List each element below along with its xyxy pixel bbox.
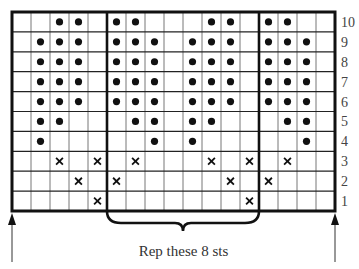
start-arrow-right-head <box>331 213 339 225</box>
repeat-brace <box>107 211 259 231</box>
purl-dot <box>189 98 196 105</box>
row-label: 5 <box>341 114 348 129</box>
purl-dot <box>132 38 139 45</box>
cross-stitch <box>113 178 120 185</box>
purl-dot <box>208 18 215 25</box>
purl-dot <box>56 98 63 105</box>
start-arrow-left-head <box>8 213 16 225</box>
purl-dot <box>37 58 44 65</box>
purl-dot <box>284 58 291 65</box>
purl-dot <box>284 18 291 25</box>
purl-dot <box>113 38 120 45</box>
purl-dot <box>303 78 310 85</box>
purl-dot <box>265 98 272 105</box>
purl-dot <box>132 98 139 105</box>
purl-dot <box>56 78 63 85</box>
row-label: 1 <box>341 194 348 209</box>
row-label: 10 <box>341 15 355 30</box>
purl-dot <box>113 78 120 85</box>
purl-dot <box>189 38 196 45</box>
purl-dot <box>56 58 63 65</box>
purl-dot <box>151 98 158 105</box>
purl-dot <box>265 18 272 25</box>
purl-dot <box>37 118 44 125</box>
purl-dot <box>132 18 139 25</box>
purl-dot <box>189 138 196 145</box>
purl-dot <box>151 78 158 85</box>
purl-dot <box>113 98 120 105</box>
purl-dot <box>303 138 310 145</box>
purl-dot <box>113 58 120 65</box>
purl-dot <box>227 38 234 45</box>
purl-dot <box>303 98 310 105</box>
purl-dot <box>208 78 215 85</box>
purl-dot <box>151 38 158 45</box>
purl-dot <box>208 98 215 105</box>
cross-stitch <box>265 178 272 185</box>
purl-dot <box>132 58 139 65</box>
purl-dot <box>132 118 139 125</box>
purl-dot <box>227 98 234 105</box>
cross-stitch <box>208 158 215 165</box>
purl-dot <box>151 58 158 65</box>
purl-dot <box>189 58 196 65</box>
purl-dot <box>189 78 196 85</box>
purl-dot <box>56 38 63 45</box>
cross-stitch <box>75 178 82 185</box>
cross-stitch <box>132 158 139 165</box>
purl-dot <box>303 58 310 65</box>
purl-dot <box>265 38 272 45</box>
purl-dot <box>75 38 82 45</box>
purl-dot <box>37 78 44 85</box>
repeat-caption: Rep these 8 sts <box>0 243 359 260</box>
purl-dot <box>56 18 63 25</box>
purl-dot <box>265 58 272 65</box>
knitting-chart: 10987654321 <box>0 0 359 269</box>
purl-dot <box>151 138 158 145</box>
purl-dot <box>208 118 215 125</box>
purl-dot <box>75 58 82 65</box>
row-label: 7 <box>341 75 348 90</box>
purl-dot <box>56 118 63 125</box>
purl-dot <box>208 58 215 65</box>
cross-stitch <box>94 198 101 205</box>
purl-dot <box>265 78 272 85</box>
purl-dot <box>113 18 120 25</box>
row-label: 6 <box>341 95 348 110</box>
cross-stitch <box>284 158 291 165</box>
purl-dot <box>303 38 310 45</box>
row-label: 2 <box>341 174 348 189</box>
purl-dot <box>284 78 291 85</box>
cross-stitch <box>227 178 234 185</box>
purl-dot <box>227 78 234 85</box>
purl-dot <box>132 78 139 85</box>
purl-dot <box>151 118 158 125</box>
cross-stitch <box>246 158 253 165</box>
purl-dot <box>75 18 82 25</box>
purl-dot <box>208 38 215 45</box>
purl-dot <box>284 98 291 105</box>
purl-dot <box>75 98 82 105</box>
cross-stitch <box>56 158 63 165</box>
row-label: 4 <box>341 134 348 149</box>
purl-dot <box>227 18 234 25</box>
cross-stitch <box>94 158 101 165</box>
row-label: 9 <box>341 35 348 50</box>
cross-stitch <box>246 198 253 205</box>
purl-dot <box>284 118 291 125</box>
purl-dot <box>189 118 196 125</box>
purl-dot <box>37 38 44 45</box>
purl-dot <box>284 38 291 45</box>
purl-dot <box>37 138 44 145</box>
purl-dot <box>303 118 310 125</box>
purl-dot <box>75 78 82 85</box>
purl-dot <box>37 98 44 105</box>
row-label: 8 <box>341 55 348 70</box>
row-label: 3 <box>341 154 348 169</box>
purl-dot <box>227 58 234 65</box>
